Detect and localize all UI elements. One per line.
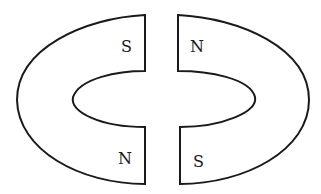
right-magnet-bottom-pole-label: S	[193, 154, 204, 170]
right-magnet-top-pole-label: N	[190, 39, 204, 55]
left-magnet-top-pole-label: S	[121, 39, 132, 55]
magnets-diagram	[0, 0, 321, 194]
left-magnet-bottom-pole-label: N	[118, 151, 132, 167]
